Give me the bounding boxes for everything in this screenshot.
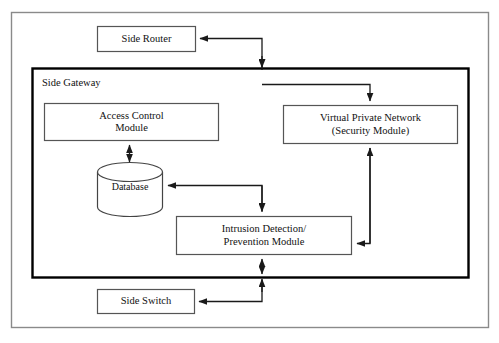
edge-gateway-to-virtual-private-network	[262, 85, 370, 102]
side-switch-hit-area[interactable]	[97, 289, 195, 314]
edge-intrusion-module-to-database	[168, 186, 262, 212]
side-router-hit-area[interactable]	[97, 26, 196, 52]
edge-gateway-to-side-switch	[199, 279, 262, 302]
figure-border	[12, 13, 489, 328]
access-control-module-hit-area[interactable]	[44, 103, 219, 141]
database-hit-area[interactable]	[96, 161, 164, 217]
diagram-vector-layer	[0, 0, 499, 343]
edge-gateway-to-side-router	[200, 39, 262, 71]
intrusion-detection-prevention-module-hit-area[interactable]	[176, 216, 352, 255]
virtual-private-network-hit-area[interactable]	[283, 105, 458, 144]
diagram-canvas: Side Gateway Side Router Access Control …	[0, 0, 499, 343]
edge-virtual-private-network-to-intrusion-module	[357, 148, 370, 244]
